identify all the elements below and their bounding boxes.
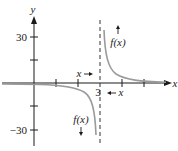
y-axis-label: y: [30, 3, 36, 15]
x-axis-arrow-icon: [164, 80, 172, 86]
svg-text:f(x): f(x): [110, 36, 126, 49]
svg-text:x: x: [118, 86, 124, 98]
down-arrow-icon: [79, 132, 83, 136]
x-axis: [2, 79, 172, 87]
fx-decreasing-annotation: f(x): [73, 113, 89, 136]
asymptote-label: 3: [95, 86, 101, 98]
x-approach-right-annotation: x: [107, 86, 124, 98]
y-axis: [30, 16, 38, 146]
function-graph: y x 30 −30 3 x x f(x) f(x): [0, 0, 178, 151]
y-axis-arrow-icon: [31, 16, 37, 24]
svg-text:x: x: [76, 67, 82, 79]
svg-text:f(x): f(x): [73, 113, 89, 126]
y-tick-label-neg30: −30: [10, 124, 28, 136]
y-tick-label-30: 30: [16, 31, 28, 43]
x-axis-label: x: [172, 77, 178, 89]
fx-increasing-annotation: f(x): [110, 25, 126, 49]
x-approach-left-annotation: x: [76, 67, 93, 79]
